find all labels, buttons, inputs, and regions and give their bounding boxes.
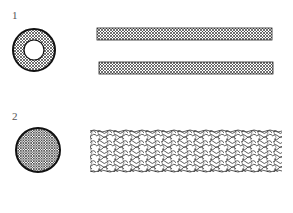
hollow-ring-cross-section <box>13 29 55 71</box>
lower-hatched-band <box>99 62 273 74</box>
upper-hatched-band <box>97 28 272 40</box>
solid-disc-cross-section <box>16 128 60 172</box>
illustration <box>0 0 293 213</box>
wavy-mesh-tube <box>90 130 282 172</box>
